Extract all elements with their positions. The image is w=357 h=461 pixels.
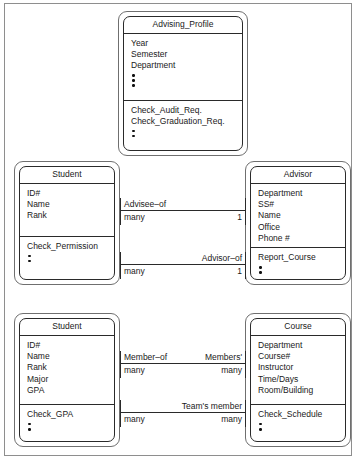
- class-title-student-lower: Student: [20, 319, 114, 336]
- relationship-label-right: Team's member: [182, 402, 242, 411]
- relationship-name-row: Advisee–of: [120, 198, 246, 211]
- operations-compartment: Check_Schedule: [251, 405, 345, 441]
- attribute-row: Semester: [131, 49, 242, 60]
- relationship-multiplicity-row: many many: [120, 413, 246, 427]
- ellipsis-dot: [132, 84, 135, 87]
- multiplicity-right: many: [221, 366, 242, 375]
- attributes-compartment: Department SS# Name Office Phone #: [251, 184, 345, 248]
- ellipsis-dot: [28, 423, 31, 426]
- operations-compartment: Report_Course: [251, 248, 345, 279]
- multiplicity-left: many: [124, 415, 145, 424]
- attributes-compartment: ID# Name Rank: [20, 184, 114, 237]
- class-box-student-upper[interactable]: Student ID# Name Rank Check_Permission: [14, 161, 120, 285]
- attribute-row: ID#: [27, 188, 114, 199]
- attribute-row: Name: [27, 199, 114, 210]
- attribute-row: Name: [27, 351, 114, 362]
- multiplicity-left: many: [124, 366, 145, 375]
- operation-row: Report_Course: [258, 252, 345, 263]
- relationship-label-left: Advisee–of: [124, 200, 166, 209]
- ellipsis-dot: [259, 428, 262, 431]
- diagram-canvas: Advising_Profile Year Semester Departmen…: [0, 0, 357, 461]
- attribute-row: ID#: [27, 340, 114, 351]
- attribute-row: SS#: [258, 199, 345, 210]
- ellipsis-dot: [132, 74, 135, 77]
- relationship-name-row: Advisor–of: [120, 252, 246, 265]
- relationship-name-row: Team's member: [120, 400, 246, 413]
- operations-compartment: Check_Permission: [20, 237, 114, 279]
- operation-row: Check_Audit_Req.: [131, 105, 242, 116]
- class-inner-frame: Advisor Department SS# Name Office Phone…: [250, 166, 346, 280]
- class-box-advisor[interactable]: Advisor Department SS# Name Office Phone…: [245, 161, 351, 285]
- class-title-student-upper: Student: [20, 167, 114, 184]
- class-title-course: Course: [251, 319, 345, 336]
- attributes-compartment: ID# Name Rank Major GPA: [20, 336, 114, 405]
- operation-row: Check_Schedule: [258, 409, 345, 420]
- attribute-row: Department: [258, 340, 345, 351]
- attribute-row: Major: [27, 374, 114, 385]
- attribute-row: Course#: [258, 351, 345, 362]
- operation-row: Check_Permission: [27, 241, 114, 252]
- class-inner-frame: Student ID# Name Rank Major GPA Check_GP…: [19, 318, 115, 442]
- attribute-row: Year: [131, 38, 242, 49]
- ellipsis-dot: [132, 79, 135, 82]
- multiplicity-left: many: [124, 267, 145, 276]
- attribute-row: Rank: [27, 362, 114, 373]
- operations-compartment: Check_GPA: [20, 405, 114, 441]
- attribute-row: Phone #: [258, 233, 345, 244]
- attribute-row: Time/Days: [258, 374, 345, 385]
- class-box-course[interactable]: Course Department Course# Instructor Tim…: [245, 313, 351, 447]
- multiplicity-left: many: [124, 213, 145, 222]
- attributes-compartment: Department Course# Instructor Time/Days …: [251, 336, 345, 405]
- class-inner-frame: Student ID# Name Rank Check_Permission: [19, 166, 115, 280]
- relationship-multiplicity-row: many many: [120, 364, 246, 378]
- multiplicity-right: 1: [237, 267, 242, 276]
- relationship-label-left: Member–of: [124, 353, 167, 362]
- relationship-name-row: Member–of Members': [120, 351, 246, 364]
- attribute-row: Room/Building: [258, 385, 345, 396]
- relationship-advisor-of[interactable]: Advisor–of many 1: [120, 252, 246, 279]
- relationship-label-right: Members': [205, 353, 242, 362]
- class-box-student-lower[interactable]: Student ID# Name Rank Major GPA Check_GP…: [14, 313, 120, 447]
- ellipsis-dot: [28, 260, 31, 263]
- class-title-advising-profile: Advising_Profile: [124, 17, 242, 34]
- ellipsis-dot: [28, 255, 31, 258]
- operation-row: Check_GPA: [27, 409, 114, 420]
- ellipsis-dot: [132, 130, 135, 133]
- relationship-member-of[interactable]: Member–of Members' many many: [120, 351, 246, 378]
- attributes-compartment: Year Semester Department: [124, 34, 242, 101]
- class-inner-frame: Course Department Course# Instructor Tim…: [250, 318, 346, 442]
- class-inner-frame: Advising_Profile Year Semester Departmen…: [123, 16, 243, 151]
- attribute-row: Department: [258, 188, 345, 199]
- attribute-row: Name: [258, 210, 345, 221]
- attribute-row: Instructor: [258, 362, 345, 373]
- attribute-row: GPA: [27, 385, 114, 396]
- relationship-multiplicity-row: many 1: [120, 265, 246, 279]
- relationship-label-right: Advisor–of: [202, 254, 242, 263]
- relationship-multiplicity-row: many 1: [120, 211, 246, 225]
- multiplicity-right: many: [221, 415, 242, 424]
- ellipsis-dot: [259, 271, 262, 274]
- ellipsis-dot: [259, 423, 262, 426]
- attribute-row: Department: [131, 60, 242, 71]
- multiplicity-right: 1: [237, 213, 242, 222]
- ellipsis-dot: [132, 135, 135, 138]
- attribute-row: Office: [258, 222, 345, 233]
- class-title-advisor: Advisor: [251, 167, 345, 184]
- ellipsis-dot: [259, 266, 262, 269]
- operation-row: Check_Graduation_Req.: [131, 116, 242, 127]
- operations-compartment: Check_Audit_Req. Check_Graduation_Req.: [124, 101, 242, 150]
- ellipsis-dot: [28, 428, 31, 431]
- class-box-advising-profile[interactable]: Advising_Profile Year Semester Departmen…: [118, 11, 248, 156]
- attribute-row: Rank: [27, 210, 114, 221]
- relationship-teams-member[interactable]: Team's member many many: [120, 400, 246, 427]
- relationship-advisee-of[interactable]: Advisee–of many 1: [120, 198, 246, 225]
